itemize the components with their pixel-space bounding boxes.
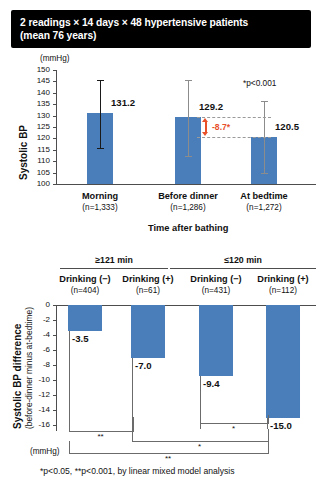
sig-bracket-1 — [200, 415, 269, 424]
category-n-2: (n=1,272) — [219, 203, 309, 212]
y-tick-label-top: 125 — [28, 122, 50, 131]
figure-root: 2 readings × 14 days × 48 hypertensive p… — [0, 0, 322, 484]
title-line-2: (mean 76 years) — [20, 30, 96, 41]
y-tick-top — [53, 93, 56, 94]
group-label-1: ≤120 min — [198, 255, 288, 265]
group-rule-1 — [170, 268, 316, 269]
error-bar-0 — [100, 80, 101, 147]
delta-label: -8.7* — [212, 122, 230, 132]
error-cap-low-0 — [97, 148, 104, 149]
y-tick-label-top: 140 — [28, 88, 50, 97]
y-tick-top — [53, 184, 56, 185]
error-cap-low-2 — [261, 173, 268, 174]
delta-arrow-head-down — [202, 132, 208, 136]
y-axis-unit-bottom: (mmHg) — [30, 447, 60, 456]
y-tick-label-top: 100 — [28, 179, 50, 188]
sig-bracket-0 — [69, 417, 134, 432]
footnote: *p<0.05, **p<0.001, by linear mixed mode… — [40, 466, 234, 476]
y-tick-top — [53, 127, 56, 128]
y-tick-bottom — [53, 320, 56, 321]
y-tick-label-top: 105 — [28, 168, 50, 177]
delta-dashed-lower — [197, 137, 271, 138]
value-label-2: -9.4 — [203, 378, 220, 389]
value-leader-0 — [69, 331, 70, 429]
error-cap-high-1 — [185, 80, 192, 81]
value-label-3: -15.0 — [270, 420, 292, 431]
y-tick-top — [53, 173, 56, 174]
chart-systolic-bp-difference: ≥121 min≤120 min0-2-4-6-8-10-12-14-16(mm… — [0, 255, 322, 465]
y-axis-title-bottom: Systolic BP difference — [12, 324, 23, 429]
bar-3 — [266, 305, 300, 418]
x-axis-top — [56, 184, 316, 185]
y-tick-label-top: 120 — [28, 133, 50, 142]
y-tick-bottom — [53, 335, 56, 336]
y-axis-subtitle-bottom: (before-dinner minus at-bedtime) — [24, 307, 34, 429]
group-label-0: ≥121 min — [69, 255, 159, 265]
y-tick-label-top: 135 — [28, 99, 50, 108]
y-axis-top — [56, 70, 57, 184]
y-tick-label-top: 150 — [28, 65, 50, 74]
group-rule-0 — [60, 268, 168, 269]
y-tick-label-top: 130 — [28, 111, 50, 120]
error-bar-1 — [188, 80, 189, 156]
y-tick-top — [53, 161, 56, 162]
sig-star-3: ** — [156, 454, 180, 463]
value-label-1: -7.0 — [135, 360, 152, 371]
title-line-1: 2 readings × 14 days × 48 hypertensive p… — [20, 17, 248, 28]
title-banner: 2 readings × 14 days × 48 hypertensive p… — [11, 10, 311, 48]
error-cap-high-0 — [97, 80, 104, 81]
y-tick-bottom — [53, 365, 56, 366]
y-tick-bottom — [53, 380, 56, 381]
y-axis-unit-top: (mmHg) — [40, 54, 70, 63]
y-tick-bottom — [53, 425, 56, 426]
y-axis-bottom — [56, 305, 57, 431]
value-label-0: 131.2 — [111, 97, 135, 108]
y-tick-label-top: 115 — [28, 145, 50, 154]
category-label-3: Drinking (+) — [238, 274, 322, 284]
category-n-0: (n=1,333) — [55, 203, 145, 212]
sig-bracket-3 — [69, 441, 269, 454]
error-cap-high-2 — [261, 101, 268, 102]
y-tick-top — [53, 70, 56, 71]
y-tick-label-top: 145 — [28, 76, 50, 85]
category-label-0: Morning — [55, 191, 145, 201]
y-tick-bottom — [53, 410, 56, 411]
value-label-2: 120.5 — [275, 121, 299, 132]
y-tick-bottom — [53, 395, 56, 396]
y-tick-label-top: 110 — [28, 156, 50, 165]
delta-arrow-head-up — [202, 118, 208, 122]
y-tick-top — [53, 104, 56, 105]
chart-systolic-bp-by-time: (mmHg)100105110115120125130135140145150S… — [0, 52, 322, 242]
bar-0 — [68, 305, 102, 331]
category-label-2: At bedtime — [219, 191, 309, 201]
y-tick-bottom — [53, 350, 56, 351]
error-cap-low-1 — [185, 156, 192, 157]
y-tick-top — [53, 138, 56, 139]
sig-star-0: ** — [89, 432, 113, 441]
y-tick-top — [53, 116, 56, 117]
y-tick-bottom — [53, 305, 56, 306]
y-axis-title-top: Systolic BP — [18, 125, 29, 180]
x-axis-title: Time after bathing — [148, 223, 228, 233]
value-label-0: -3.5 — [72, 333, 89, 344]
value-label-1: 129.2 — [199, 101, 223, 112]
y-tick-top — [53, 81, 56, 82]
p-note-top: *p<0.001 — [243, 78, 276, 88]
bar-1 — [131, 305, 165, 358]
category-n-3: (n=112) — [238, 286, 322, 295]
y-tick-top — [53, 150, 56, 151]
bar-2 — [199, 305, 233, 376]
